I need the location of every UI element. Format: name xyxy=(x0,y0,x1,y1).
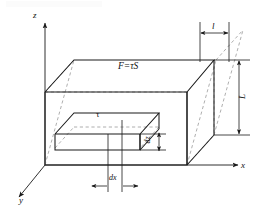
z-axis-label: z xyxy=(33,11,37,20)
shear-stress-label: τ xyxy=(96,110,99,119)
outer-block-right-bottom-edge xyxy=(187,135,214,165)
outer-block-front-face xyxy=(45,92,187,165)
coordinate-axes xyxy=(19,23,238,197)
element-shift-label: dx xyxy=(109,174,117,182)
y-axis xyxy=(19,165,45,197)
length-l-label: l xyxy=(212,22,215,31)
shear-deformation-figure: z x y F=τS τ l L dz dx xyxy=(0,0,259,213)
y-axis-label: y xyxy=(19,196,23,205)
height-L-label: L xyxy=(238,94,247,99)
element-thickness-label: dz xyxy=(144,136,152,143)
x-axis-label: x xyxy=(241,161,245,170)
sheared-outline-dashed xyxy=(45,30,243,165)
force-label: F=τS xyxy=(118,62,138,72)
inner-slab-front-face xyxy=(55,134,140,150)
inner-slab-top-face xyxy=(55,113,159,134)
figure-canvas xyxy=(0,0,259,213)
